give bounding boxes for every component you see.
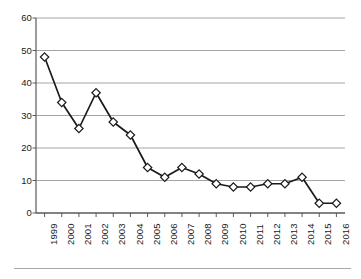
x-axis-tick-label: 2016 [341, 223, 351, 245]
x-axis-tick-label: 2009 [220, 223, 230, 245]
x-axis-tick-label: 2013 [289, 223, 299, 245]
x-axis-tick-label: 2007 [186, 223, 196, 245]
line-chart-figure: 0102030405060 19992000200120022003200420… [0, 0, 361, 279]
x-axis-tick-label: 2002 [100, 223, 110, 245]
x-axis-tick-label: 2011 [255, 224, 265, 245]
footer-divider [14, 268, 351, 269]
x-axis-tick-label: 2005 [152, 223, 162, 245]
x-axis-tick-label: 2012 [272, 223, 282, 245]
x-axis-tick-label: 2000 [66, 223, 76, 245]
x-axis-tick-label: 2003 [117, 223, 127, 245]
x-axis-tick-labels: 1999200020012002200320042005200620072008… [0, 0, 361, 279]
x-axis-tick-label: 2004 [135, 223, 145, 245]
x-axis-tick-label: 2015 [323, 223, 333, 245]
x-axis-tick-label: 2001 [83, 223, 93, 245]
x-axis-tick-label: 2014 [306, 223, 316, 245]
x-axis-tick-label: 2008 [203, 223, 213, 245]
x-axis-tick-label: 2006 [169, 223, 179, 245]
x-axis-tick-label: 1999 [49, 223, 59, 245]
x-axis-tick-label: 2010 [238, 223, 248, 245]
